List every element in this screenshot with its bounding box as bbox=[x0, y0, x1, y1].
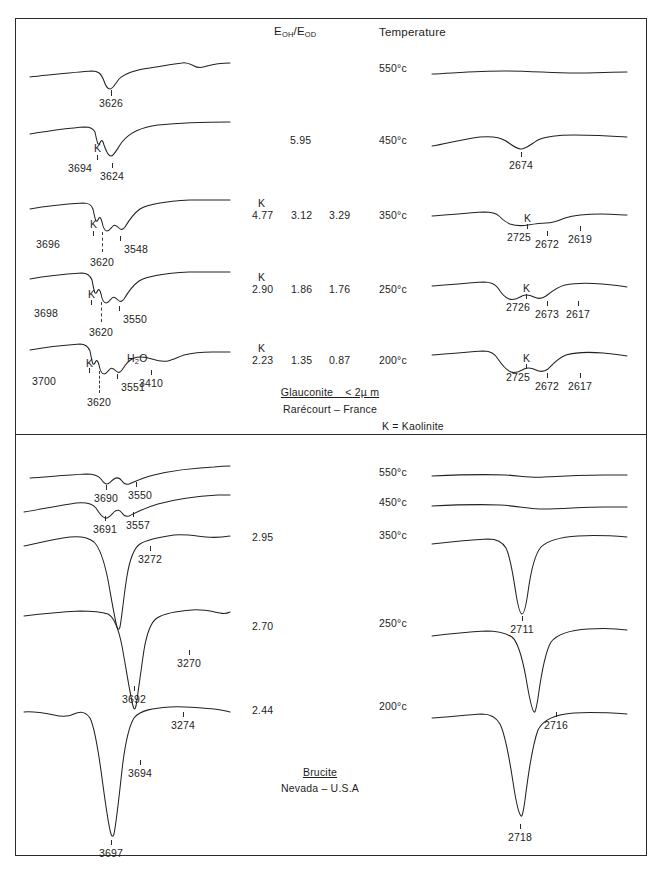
kaolinite-legend: K = Kaolinite bbox=[382, 420, 444, 432]
spectrum-trace-od-350c-brucite bbox=[432, 530, 627, 630]
ratio-header-od: OD bbox=[305, 30, 317, 39]
peak-label-3697: 3697 bbox=[99, 847, 123, 859]
temperature-label-450c-brucite: 450°c bbox=[379, 496, 407, 508]
peak-label-2673: 2673 bbox=[535, 308, 559, 320]
peak-label-2725: 2725 bbox=[507, 231, 531, 243]
spectrum-trace-od-450c-glauconite bbox=[432, 128, 627, 158]
kaolinite-marker-od-350c: K bbox=[524, 212, 531, 224]
panel-caption-brucite-line2: Nevada – U.S.A bbox=[281, 782, 359, 794]
peak-tick bbox=[91, 300, 92, 305]
peak-label-3694: 3694 bbox=[68, 162, 92, 174]
temperature-label-450c-glauconite: 450°c bbox=[379, 134, 407, 146]
peak-label-2617b: 2617 bbox=[568, 380, 592, 392]
ratio-value-350c-3: 3.29 bbox=[329, 209, 350, 221]
peak-tick bbox=[101, 302, 102, 322]
peak-tick bbox=[105, 516, 106, 521]
panel-caption-glauconite-line1: Glauconite _ < 2µ m bbox=[281, 386, 379, 398]
peak-tick bbox=[111, 90, 112, 96]
peak-tick bbox=[136, 482, 137, 487]
peak-label-3624: 3624 bbox=[100, 170, 124, 182]
peak-tick bbox=[527, 224, 528, 229]
caption-text: Brucite bbox=[303, 766, 337, 778]
ratio-header-oh: OH bbox=[282, 30, 294, 39]
kaolinite-marker-450c: K bbox=[94, 142, 101, 154]
peak-tick bbox=[189, 650, 190, 655]
kaolinite-marker-350c: K bbox=[90, 218, 97, 230]
peak-label-2619: 2619 bbox=[568, 233, 592, 245]
ratio-value-200c-2: 1.35 bbox=[291, 354, 312, 366]
ratio-value-250c-3: 1.76 bbox=[329, 283, 350, 295]
kaolinite-marker-od-200c: K bbox=[523, 352, 530, 364]
peak-tick bbox=[150, 546, 151, 551]
peak-tick bbox=[140, 760, 141, 765]
temperature-label-250c-brucite: 250°c bbox=[379, 617, 407, 629]
spectrum-trace-oh-350c-glauconite bbox=[30, 196, 230, 244]
peak-label-3270: 3270 bbox=[177, 657, 201, 669]
spectrum-trace-od-550c-brucite bbox=[432, 466, 627, 488]
peak-tick bbox=[547, 301, 548, 306]
ratio-header: EOH/EOD bbox=[274, 25, 316, 39]
peak-label-2617: 2617 bbox=[566, 308, 590, 320]
peak-tick bbox=[547, 231, 548, 236]
ratio-value-200c-brucite: 2.44 bbox=[252, 704, 273, 716]
spectrum-trace-od-200c-brucite bbox=[432, 704, 627, 824]
spectrum-trace-od-550c-glauconite bbox=[432, 62, 627, 84]
ratio-header-slash: /E bbox=[294, 25, 305, 37]
peak-label-3550: 3550 bbox=[123, 313, 147, 325]
peak-tick bbox=[119, 306, 120, 311]
peak-tick bbox=[112, 163, 113, 168]
peak-tick bbox=[99, 371, 100, 393]
peak-tick bbox=[522, 616, 523, 621]
peak-label-3272: 3272 bbox=[138, 553, 162, 565]
peak-label-2672: 2672 bbox=[535, 238, 559, 250]
temperature-label-200c-glauconite: 200°c bbox=[379, 354, 407, 366]
ratio-value-250c-brucite: 2.70 bbox=[252, 620, 273, 632]
peak-label-3410: 3410 bbox=[139, 377, 163, 389]
ratio-header-e1: E bbox=[274, 25, 282, 37]
ratio-value-350c-2: 3.12 bbox=[291, 209, 312, 221]
peak-tick bbox=[120, 236, 121, 241]
peak-tick bbox=[134, 686, 135, 691]
peak-tick bbox=[117, 374, 118, 379]
ratio-value-200c-3: 0.87 bbox=[329, 354, 350, 366]
peak-label-3694b: 3694 bbox=[128, 767, 152, 779]
kaolinite-marker-ratio-250c: K bbox=[258, 271, 265, 283]
spectrum-trace-oh-450c-glauconite bbox=[30, 118, 230, 168]
peak-tick bbox=[151, 370, 152, 375]
ratio-value-350c-brucite: 2.95 bbox=[252, 531, 273, 543]
spectrum-trace-oh-550c-glauconite bbox=[30, 55, 230, 100]
kaolinite-marker-250c: K bbox=[88, 288, 95, 300]
temperature-label-350c-glauconite: 350°c bbox=[379, 209, 407, 221]
peak-tick bbox=[89, 368, 90, 373]
peak-label-2674: 2674 bbox=[509, 159, 533, 171]
peak-tick bbox=[547, 373, 548, 378]
peak-label-3626: 3626 bbox=[99, 97, 123, 109]
panel-caption-brucite-line1: Brucite bbox=[303, 766, 337, 778]
ratio-value-200c-1: 2.23 bbox=[252, 354, 273, 366]
water-label-o: O bbox=[139, 352, 147, 364]
peak-tick bbox=[93, 231, 94, 236]
temperature-header: Temperature bbox=[379, 26, 446, 38]
spectrum-trace-oh-250c-glauconite bbox=[30, 267, 230, 315]
peak-label-3548: 3548 bbox=[124, 243, 148, 255]
panel-divider bbox=[15, 434, 647, 435]
peak-label-3274: 3274 bbox=[171, 719, 195, 731]
kaolinite-marker-od-250c: K bbox=[523, 282, 530, 294]
caption-text: Glauconite _ < 2µ m bbox=[281, 386, 379, 398]
peak-tick bbox=[133, 512, 134, 517]
panel-caption-glauconite-line2: Rarécourt – France bbox=[283, 403, 377, 415]
peak-tick bbox=[580, 373, 581, 378]
peak-label-3700: 3700 bbox=[32, 375, 56, 387]
water-label: H2O bbox=[127, 352, 148, 366]
spectrum-trace-od-450c-brucite bbox=[432, 496, 627, 518]
peak-tick bbox=[520, 824, 521, 829]
kaolinite-marker-ratio-200c: K bbox=[258, 342, 265, 354]
ratio-value-250c-1: 2.90 bbox=[252, 283, 273, 295]
temperature-label-550c-glauconite: 550°c bbox=[379, 62, 407, 74]
peak-tick bbox=[111, 840, 112, 845]
peak-tick bbox=[526, 364, 527, 369]
ratio-value-350c-1: 4.77 bbox=[252, 209, 273, 221]
peak-label-3698: 3698 bbox=[34, 307, 58, 319]
kaolinite-marker-ratio-350c: K bbox=[258, 197, 265, 209]
ratio-value-250c-2: 1.86 bbox=[291, 283, 312, 295]
